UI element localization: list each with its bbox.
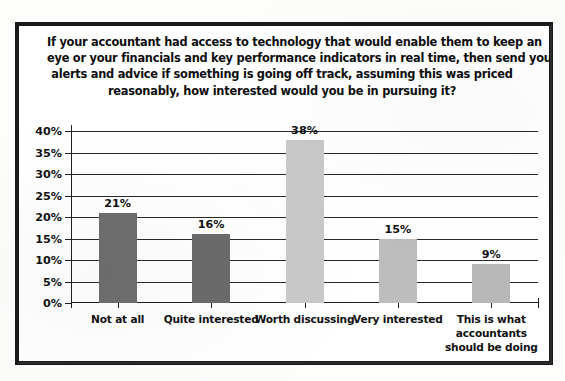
y-tick-35% [65, 153, 71, 154]
y-tick-30% [65, 174, 71, 175]
x-axis-category-label-5: This is whataccountantsshould be doing [435, 312, 547, 354]
y-tick-10% [65, 260, 71, 261]
y-tick-25% [65, 196, 71, 197]
y-tick-15% [65, 239, 71, 240]
bar-3[interactable]: 38% [286, 140, 324, 303]
chart-title: If your accountant had access to technol… [47, 34, 517, 99]
bar-value-label-4: 15% [385, 223, 412, 236]
bar-2[interactable]: 16% [192, 234, 230, 303]
y-axis-label-25%: 25% [35, 189, 62, 202]
chart-title-line-3: alerts and advice if something is going … [47, 66, 517, 82]
y-axis-label-30%: 30% [35, 168, 62, 181]
x-axis-edge-tick-left [71, 298, 72, 308]
bar-value-label-1: 21% [104, 197, 131, 210]
chart-title-line-2: eye or your financials and key performan… [47, 50, 517, 66]
chart-title-line-1: If your accountant had access to technol… [47, 34, 517, 50]
y-axis-label-5%: 5% [43, 275, 62, 288]
x-axis-edge-tick-right [538, 298, 539, 308]
bar-value-label-3: 38% [291, 124, 318, 137]
bar-1[interactable]: 21% [99, 213, 137, 303]
y-axis-label-15%: 15% [35, 232, 62, 245]
y-tick-5% [65, 282, 71, 283]
bar-value-label-2: 16% [198, 218, 225, 231]
y-axis-label-35%: 35% [35, 146, 62, 159]
y-axis-label-0%: 0% [43, 297, 62, 310]
chart-title-line-4: reasonably, how interested would you be … [47, 83, 517, 99]
y-axis-line [71, 125, 72, 303]
chart-border-frame: If your accountant had access to technol… [15, 22, 553, 365]
y-axis-label-40%: 40% [35, 125, 62, 138]
plot-area: 0%5%10%15%20%25%30%35%40% 21%16%38%15%9%… [71, 131, 538, 303]
bar-5[interactable]: 9% [472, 264, 510, 303]
y-tick-40% [65, 131, 71, 132]
scanned-chart-page: If your accountant had access to technol… [0, 0, 565, 381]
y-tick-20% [65, 217, 71, 218]
bar-value-label-5: 9% [482, 248, 501, 261]
bar-4[interactable]: 15% [379, 239, 417, 304]
y-axis-label-10%: 10% [35, 254, 62, 267]
y-axis-label-20%: 20% [35, 211, 62, 224]
